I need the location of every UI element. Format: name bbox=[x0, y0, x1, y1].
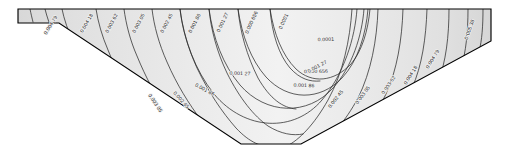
contour-label: 0.001 86 bbox=[293, 82, 314, 89]
contour-plot-figure: 0.004 790.004 180.003 620.003 050.002 45… bbox=[0, 0, 510, 149]
contour-label: 0.001 27 bbox=[229, 70, 250, 77]
contour-plot-canvas: 0.004 790.004 180.003 620.003 050.002 45… bbox=[0, 0, 510, 149]
domain-fill bbox=[18, 9, 491, 144]
contour-label: 0.003 05 bbox=[147, 92, 164, 113]
contour-label: 0.0001 bbox=[318, 36, 335, 43]
